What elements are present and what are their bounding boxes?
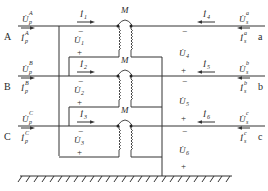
svg-text:U̇: U̇ bbox=[239, 64, 246, 74]
svg-text:s: s bbox=[244, 38, 247, 44]
svg-text:b: b bbox=[246, 60, 249, 66]
svg-text:−: − bbox=[182, 26, 187, 36]
arrow-i6 bbox=[197, 120, 215, 123]
circuit-diagram: A B C U̇ p A U̇ p B U̇ p C İ p A İ p B İ… bbox=[0, 0, 268, 191]
svg-text:5: 5 bbox=[207, 64, 210, 70]
mutual-label-3: M bbox=[120, 105, 129, 115]
label-up-c: U̇ p C bbox=[22, 110, 34, 125]
mutual-label-2: M bbox=[120, 55, 129, 65]
svg-text:a: a bbox=[244, 30, 247, 36]
svg-text:U̇: U̇ bbox=[239, 14, 246, 24]
label-i1: İ 1 bbox=[79, 9, 87, 20]
label-u3: − U̇ 3 + bbox=[74, 126, 84, 157]
label-is-a: İ s a bbox=[239, 30, 247, 44]
svg-text:+: + bbox=[181, 161, 186, 171]
label-i4: İ 4 bbox=[202, 9, 210, 20]
svg-text:c: c bbox=[246, 110, 249, 116]
svg-text:5: 5 bbox=[186, 101, 189, 107]
svg-text:6: 6 bbox=[186, 150, 189, 156]
svg-text:U̇: U̇ bbox=[179, 48, 186, 58]
svg-text:A: A bbox=[24, 30, 29, 36]
label-us-b: U̇ s b bbox=[239, 60, 249, 75]
svg-text:2: 2 bbox=[81, 90, 84, 96]
svg-text:U̇: U̇ bbox=[179, 96, 186, 106]
port-label-A: A bbox=[4, 31, 12, 42]
label-u6: − U̇ 6 + bbox=[179, 126, 189, 171]
svg-text:+: + bbox=[181, 113, 186, 123]
svg-text:U̇: U̇ bbox=[22, 14, 29, 24]
svg-text:c: c bbox=[244, 130, 247, 136]
svg-text:C: C bbox=[29, 110, 34, 116]
label-is-b: İ s b bbox=[239, 80, 247, 94]
svg-text:3: 3 bbox=[83, 114, 87, 120]
svg-text:B: B bbox=[29, 60, 33, 66]
svg-text:+: + bbox=[77, 97, 82, 107]
svg-text:U̇: U̇ bbox=[239, 114, 246, 124]
svg-text:1: 1 bbox=[81, 40, 84, 46]
mutual-label-1: M bbox=[120, 5, 129, 15]
ground-symbol bbox=[18, 176, 232, 182]
svg-text:p: p bbox=[28, 19, 32, 25]
label-i6: İ 6 bbox=[202, 109, 210, 120]
arrow-i2 bbox=[77, 70, 95, 73]
svg-text:p: p bbox=[24, 88, 28, 94]
svg-text:2: 2 bbox=[84, 64, 87, 70]
arrow-i4 bbox=[197, 20, 215, 23]
svg-text:s: s bbox=[244, 138, 247, 144]
label-ip-c: İ p C bbox=[20, 130, 30, 144]
svg-text:C: C bbox=[25, 130, 30, 136]
svg-text:s: s bbox=[244, 88, 247, 94]
svg-text:U̇: U̇ bbox=[179, 145, 186, 155]
port-label-C: C bbox=[4, 131, 11, 142]
svg-text:p: p bbox=[28, 69, 32, 75]
label-u4: − U̇ 4 + bbox=[179, 26, 189, 75]
svg-text:−: − bbox=[182, 76, 187, 86]
label-u2: − U̇ 2 + bbox=[74, 76, 84, 107]
svg-text:p: p bbox=[24, 138, 28, 144]
svg-text:+: + bbox=[77, 147, 82, 157]
svg-text:4: 4 bbox=[207, 14, 210, 20]
label-up-a: U̇ p A bbox=[22, 10, 33, 25]
svg-text:+: + bbox=[181, 65, 186, 75]
label-ip-a: İ p A bbox=[20, 30, 29, 44]
svg-text:3: 3 bbox=[80, 140, 84, 146]
svg-text:1: 1 bbox=[84, 14, 87, 20]
label-u1: − U̇ 1 + bbox=[74, 26, 84, 57]
svg-text:U̇: U̇ bbox=[74, 85, 81, 95]
svg-text:4: 4 bbox=[186, 53, 189, 59]
label-u5: − U̇ 5 + bbox=[179, 76, 189, 123]
svg-text:B: B bbox=[25, 80, 29, 86]
port-label-b: b bbox=[258, 81, 263, 92]
svg-text:s: s bbox=[246, 69, 249, 75]
label-ip-b: İ p B bbox=[20, 80, 29, 94]
svg-text:a: a bbox=[246, 10, 249, 16]
svg-text:s: s bbox=[246, 19, 249, 25]
arrow-i3 bbox=[77, 120, 95, 123]
svg-text:p: p bbox=[28, 119, 32, 125]
svg-text:s: s bbox=[246, 119, 249, 125]
label-us-c: U̇ s c bbox=[239, 110, 249, 125]
port-label-a: a bbox=[258, 31, 263, 42]
svg-text:U̇: U̇ bbox=[74, 35, 81, 45]
label-is-c: İ s c bbox=[239, 130, 247, 144]
svg-text:U̇: U̇ bbox=[22, 64, 29, 74]
svg-text:−: − bbox=[182, 126, 187, 136]
label-us-a: U̇ s a bbox=[239, 10, 249, 25]
svg-text:U̇: U̇ bbox=[74, 135, 81, 145]
svg-text:A: A bbox=[28, 10, 33, 16]
label-i2: İ 2 bbox=[79, 59, 87, 70]
svg-text:U̇: U̇ bbox=[22, 114, 29, 124]
svg-text:b: b bbox=[244, 80, 247, 86]
label-i5: İ 5 bbox=[202, 59, 210, 70]
label-up-b: U̇ p B bbox=[22, 60, 33, 75]
svg-text:p: p bbox=[24, 38, 28, 44]
arrow-i1 bbox=[77, 20, 95, 23]
arrow-i5 bbox=[197, 70, 215, 73]
svg-text:+: + bbox=[77, 47, 82, 57]
label-i3: İ 3 bbox=[79, 109, 87, 120]
port-label-c: c bbox=[258, 131, 263, 142]
port-label-B: B bbox=[4, 81, 11, 92]
svg-text:6: 6 bbox=[207, 114, 210, 120]
